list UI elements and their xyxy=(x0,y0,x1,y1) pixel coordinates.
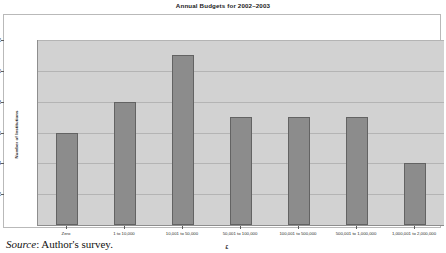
bar-slot xyxy=(328,40,386,225)
source-caption: Source: Author's survey. xyxy=(6,238,113,250)
x-tick-label: 100,001 to 500,000 xyxy=(279,231,316,236)
x-tick-label: Zero xyxy=(62,231,71,236)
bar[interactable] xyxy=(230,117,252,225)
y-tick-mark xyxy=(1,163,4,164)
y-axis-ticks: 24681012 xyxy=(4,15,37,225)
y-tick-mark xyxy=(1,102,4,103)
x-tick-mark xyxy=(298,226,299,229)
bar-slot xyxy=(270,40,328,225)
y-tick-mark xyxy=(1,40,4,41)
source-text: : Author's survey. xyxy=(36,238,113,250)
bar[interactable] xyxy=(346,117,368,225)
bar[interactable] xyxy=(172,55,194,225)
x-tick-mark xyxy=(240,226,241,229)
bar-slot xyxy=(154,40,212,225)
x-tick-label: 10,001 to 50,000 xyxy=(166,231,198,236)
y-tick-mark xyxy=(1,71,4,72)
x-tick-mark xyxy=(66,226,67,229)
chart-title: Annual Budgets for 2002–2003 xyxy=(0,2,446,9)
bar[interactable] xyxy=(404,163,426,225)
x-tick-mark xyxy=(414,226,415,229)
bar[interactable] xyxy=(288,117,310,225)
x-tick-label: 50,001 to 100,000 xyxy=(223,231,258,236)
x-tick-label: 1,000,001 to 2,000,000 xyxy=(392,231,436,236)
x-tick-mark xyxy=(124,226,125,229)
bar-slot xyxy=(96,40,154,225)
x-tick-label: 500,001 to 1,000,000 xyxy=(336,231,377,236)
x-tick-mark xyxy=(182,226,183,229)
chart-frame: Number of Institutions 24681012 Zero1 to… xyxy=(3,14,441,228)
figure: Annual Budgets for 2002–2003 Number of I… xyxy=(0,0,446,253)
bar-slot xyxy=(386,40,444,225)
x-tick-label: 1 to 10,000 xyxy=(113,231,135,236)
x-tick-mark xyxy=(356,226,357,229)
bar[interactable] xyxy=(114,102,136,225)
bar-slot xyxy=(212,40,270,225)
y-tick-mark xyxy=(1,133,4,134)
plot-area xyxy=(37,40,444,226)
y-tick-mark xyxy=(1,194,4,195)
source-label: Source xyxy=(6,238,36,250)
bar[interactable] xyxy=(56,133,78,226)
bar-slot xyxy=(38,40,96,225)
